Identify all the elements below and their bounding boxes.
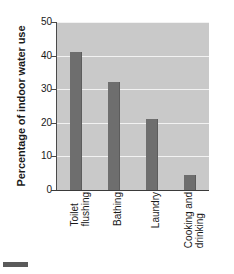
bar xyxy=(70,52,82,190)
y-axis-label: Percentage of indoor water use xyxy=(15,26,27,187)
bar-chart-figure: Percentage of indoor water use 010203040… xyxy=(0,0,234,274)
gridline xyxy=(57,22,209,23)
x-axis-tick-label: Toiletflushing xyxy=(70,192,91,226)
x-axis-tick-label: Bathing xyxy=(113,192,124,226)
x-axis-line xyxy=(51,190,209,191)
x-axis-tick-label: Laundry xyxy=(151,192,162,228)
corner-swatch xyxy=(3,262,28,267)
x-axis-tick-labels: ToiletflushingBathingLaundryCooking andd… xyxy=(56,192,208,268)
bar xyxy=(108,82,120,190)
bar xyxy=(146,119,158,190)
x-axis-tick-label: Cooking anddrinking xyxy=(184,192,205,248)
bar xyxy=(184,175,196,190)
plot-area xyxy=(56,22,209,190)
y-axis-tick-labels: 01020304050 xyxy=(28,22,52,190)
